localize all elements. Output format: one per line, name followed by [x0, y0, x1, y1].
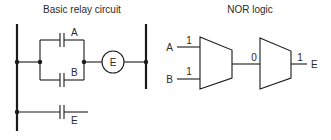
input-a-value: 1 — [186, 35, 192, 46]
contact-b: B — [40, 67, 84, 87]
diagram-canvas: Basic relay circuit A B E — [0, 0, 331, 140]
coil-e: E — [102, 51, 124, 73]
relay-circuit-title: Basic relay circuit — [43, 4, 121, 15]
input-a-label: A — [166, 42, 173, 53]
input-b-value: 1 — [186, 66, 192, 77]
nor-logic-title: NOR logic — [227, 4, 273, 15]
contact-a: A — [40, 27, 84, 47]
junction-dot — [38, 60, 42, 64]
not-gate — [260, 38, 291, 89]
junction-dot — [144, 60, 148, 64]
junction-dot — [15, 60, 19, 64]
junction-dot — [82, 60, 86, 64]
contact-b-label: B — [71, 67, 78, 78]
contact-e: E — [17, 105, 88, 126]
junction-dot — [15, 110, 19, 114]
contact-e-label: E — [71, 115, 78, 126]
relay-circuit: Basic relay circuit A B E — [15, 4, 148, 131]
intermediate-value: 0 — [251, 52, 257, 63]
or-gate — [200, 37, 232, 89]
output-value: 1 — [297, 52, 303, 63]
contact-a-label: A — [71, 27, 78, 38]
output-e-label: E — [311, 59, 318, 70]
nor-logic: NOR logic A 1 B 1 0 1 E — [166, 4, 318, 89]
input-b-label: B — [166, 74, 173, 85]
coil-e-label: E — [110, 57, 117, 68]
